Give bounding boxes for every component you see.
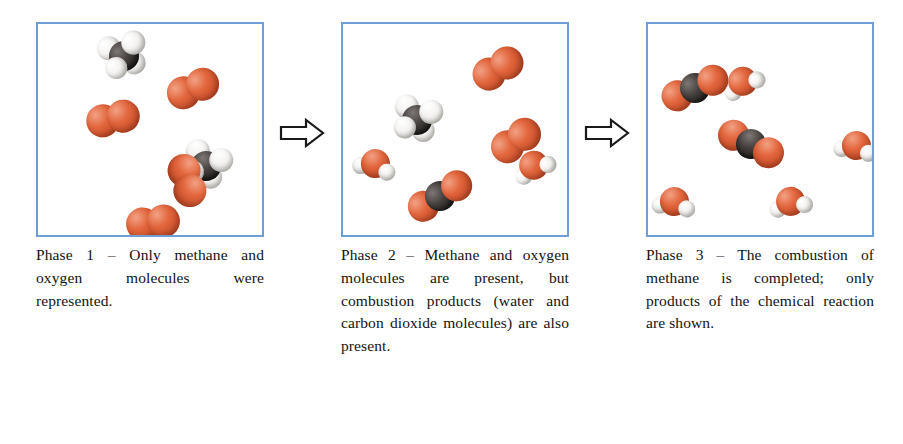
atom-o bbox=[145, 202, 182, 237]
phase-2-molecule-box bbox=[341, 22, 569, 237]
phase-3-caption: Phase 3 – The combustion of methane is c… bbox=[646, 244, 874, 335]
phase-panel-2: Phase 2 – Methane and oxygen molecules a… bbox=[341, 22, 569, 358]
arrow-phase-2-to-3-icon bbox=[584, 118, 630, 148]
atom-h bbox=[859, 144, 874, 163]
arrow-phase-1-to-2-icon bbox=[279, 118, 325, 148]
molecule-water bbox=[350, 142, 400, 184]
phase-panel-3: Phase 3 – The combustion of methane is c… bbox=[646, 22, 874, 335]
molecule-oxygen bbox=[466, 40, 529, 97]
molecule-methane bbox=[92, 25, 156, 87]
molecule-water bbox=[650, 182, 697, 220]
phase-2-caption: Phase 2 – Methane and oxygen molecules a… bbox=[341, 244, 569, 358]
molecule-water bbox=[832, 125, 874, 165]
atom-h bbox=[677, 200, 696, 219]
phase-1-caption: Phase 1 – Only methane and oxygen molecu… bbox=[36, 244, 264, 312]
phase-1-molecule-box bbox=[36, 22, 264, 237]
methane-combustion-figure: Phase 1 – Only methane and oxygen molecu… bbox=[0, 0, 903, 444]
molecule-oxygen bbox=[83, 96, 143, 140]
phase-3-molecule-box bbox=[646, 22, 874, 237]
molecule-methane bbox=[388, 93, 446, 148]
atom-h bbox=[377, 162, 397, 182]
molecule-carbon-dioxide bbox=[713, 113, 790, 174]
molecule-oxygen bbox=[124, 202, 182, 237]
molecule-carbon-dioxide bbox=[402, 165, 479, 228]
phase-panel-1: Phase 1 – Only methane and oxygen molecu… bbox=[36, 22, 264, 312]
molecule-water bbox=[765, 180, 815, 222]
molecule-oxygen bbox=[162, 62, 225, 114]
